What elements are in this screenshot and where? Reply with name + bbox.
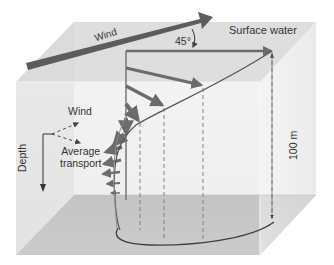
- angle-label: 45°: [175, 35, 191, 47]
- depth-scale-label: 100 m: [287, 131, 299, 160]
- ekman-spiral-diagram: Wind Surface water 45° Wind Average tran…: [0, 0, 334, 265]
- legend-wind-label: Wind: [68, 105, 92, 117]
- legend-average-line1: Average: [60, 145, 101, 157]
- diagram-canvas: [0, 0, 334, 265]
- legend-average-line2: transport: [60, 157, 101, 169]
- surface-water-label: Surface water: [229, 24, 297, 36]
- legend-average-transport-label: Average transport: [60, 145, 101, 169]
- depth-axis-label: Depth: [16, 144, 28, 172]
- front-face: [16, 82, 260, 255]
